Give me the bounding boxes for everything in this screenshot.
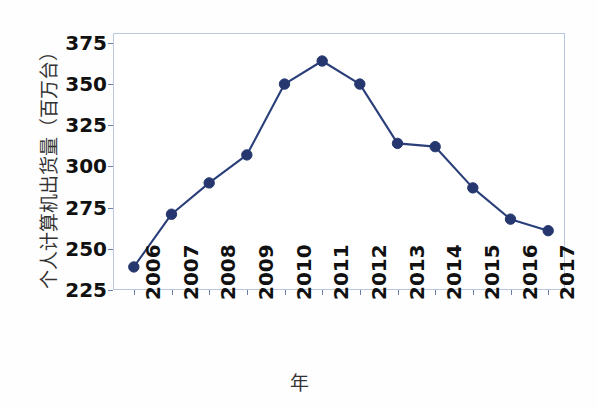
line-chart: 个人计算机出货量（百万台） 225250275300325350375 2006… xyxy=(0,0,598,409)
x-tick-label: 2017 xyxy=(557,244,577,300)
x-tick-mark xyxy=(322,290,323,295)
y-tick-mark xyxy=(108,208,113,209)
x-axis-title: 年 xyxy=(0,368,598,395)
data-point-markers xyxy=(129,56,554,272)
y-axis-tick-labels: 225250275300325350375 xyxy=(55,0,107,409)
data-point xyxy=(242,150,252,160)
x-tick-label: 2012 xyxy=(369,244,389,300)
data-point xyxy=(468,183,478,193)
y-tick-mark xyxy=(108,290,113,291)
data-point xyxy=(204,178,214,188)
y-tick-label: 225 xyxy=(55,280,107,300)
x-tick-mark xyxy=(511,290,512,295)
x-tick-label: 2008 xyxy=(218,244,238,300)
x-tick-mark xyxy=(548,290,549,295)
x-tick-label: 2015 xyxy=(482,244,502,300)
y-tick-mark xyxy=(108,125,113,126)
data-point xyxy=(355,79,365,89)
x-tick-label: 2010 xyxy=(294,244,314,300)
x-tick-mark xyxy=(209,290,210,295)
x-tick-mark xyxy=(285,290,286,295)
y-tick-mark xyxy=(108,84,113,85)
data-point xyxy=(392,138,402,148)
y-tick-mark xyxy=(108,43,113,44)
data-point xyxy=(543,225,553,235)
x-tick-mark xyxy=(398,290,399,295)
data-point xyxy=(129,262,139,272)
x-tick-label: 2016 xyxy=(520,244,540,300)
y-tick-label: 325 xyxy=(55,115,107,135)
x-tick-mark xyxy=(360,290,361,295)
x-tick-mark xyxy=(435,290,436,295)
data-point xyxy=(317,56,327,66)
x-tick-mark xyxy=(172,290,173,295)
y-tick-label: 375 xyxy=(55,33,107,53)
y-tick-label: 300 xyxy=(55,156,107,176)
x-tick-label: 2013 xyxy=(407,244,427,300)
x-tick-mark xyxy=(473,290,474,295)
data-line xyxy=(134,61,548,267)
y-tick-label: 350 xyxy=(55,74,107,94)
data-point xyxy=(166,209,176,219)
y-tick-mark xyxy=(108,249,113,250)
y-tick-label: 250 xyxy=(55,239,107,259)
x-tick-mark xyxy=(247,290,248,295)
data-point xyxy=(505,214,515,224)
y-tick-mark xyxy=(108,166,113,167)
x-tick-label: 2011 xyxy=(331,244,351,300)
y-tick-label: 275 xyxy=(55,198,107,218)
x-tick-label: 2007 xyxy=(181,244,201,300)
x-tick-label: 2009 xyxy=(256,244,276,300)
x-tick-label: 2006 xyxy=(143,244,163,300)
data-point xyxy=(430,141,440,151)
data-point xyxy=(279,79,289,89)
x-tick-label: 2014 xyxy=(444,244,464,300)
x-tick-mark xyxy=(134,290,135,295)
